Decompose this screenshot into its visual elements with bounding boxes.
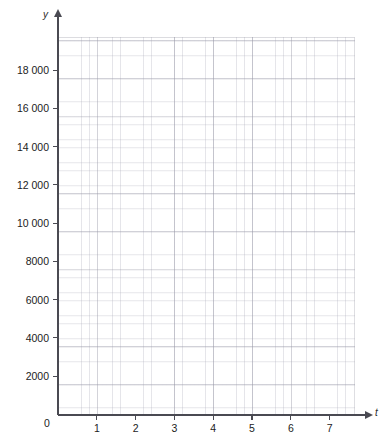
x-axis-label: t (375, 408, 378, 418)
y-axis-tick-label: 4000 (26, 333, 49, 344)
x-axis-tick-label: 1 (94, 423, 100, 434)
y-axis-tick-label: 8000 (26, 256, 49, 267)
x-axis-tick-label: 5 (249, 423, 255, 434)
x-axis-tick (329, 415, 330, 420)
y-axis-tick (53, 146, 58, 147)
y-axis-tick (53, 108, 58, 109)
y-axis-line (57, 16, 59, 415)
x-axis-tick (96, 415, 97, 420)
y-axis-tick-label: 18 000 (17, 65, 49, 76)
x-axis-tick-label: 6 (288, 423, 294, 434)
x-axis-arrow-icon (365, 411, 373, 419)
y-axis-arrow-icon (54, 9, 62, 17)
x-axis-tick (135, 415, 136, 420)
grid-area (58, 37, 355, 415)
y-axis-tick (53, 70, 58, 71)
y-axis-tick-label: 12 000 (17, 180, 49, 191)
x-axis-tick-label: 3 (171, 423, 177, 434)
origin-label: 0 (44, 418, 50, 429)
x-axis-tick (213, 415, 214, 420)
x-axis-tick-label: 4 (210, 423, 216, 434)
x-axis-tick-label: 7 (327, 423, 333, 434)
y-axis-tick-label: 16 000 (17, 103, 49, 114)
y-axis-tick (53, 184, 58, 185)
x-axis-tick-label: 2 (133, 423, 139, 434)
y-axis-tick-label: 14 000 (17, 141, 49, 152)
x-axis-tick (251, 415, 252, 420)
y-axis-label: y (43, 10, 48, 20)
y-axis-tick (53, 299, 58, 300)
y-axis-tick (53, 261, 58, 262)
y-axis-tick-label: 10 000 (17, 218, 49, 229)
x-axis-tick (174, 415, 175, 420)
x-axis-tick (290, 415, 291, 420)
y-axis-tick-label: 2000 (26, 371, 49, 382)
y-axis-tick (53, 376, 58, 377)
y-axis-tick-label: 6000 (26, 294, 49, 305)
y-axis-tick (53, 223, 58, 224)
coordinate-grid-chart: y t 0 200040006000800010 00012 00014 000… (0, 0, 390, 447)
y-axis-tick (53, 337, 58, 338)
